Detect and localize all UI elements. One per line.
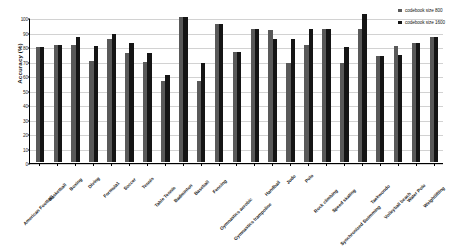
bar-group — [264, 19, 282, 162]
chart-legend: codebook size 800codebook size 1600 — [398, 8, 445, 25]
bar — [380, 56, 384, 162]
y-tick-label: 20 — [23, 133, 28, 138]
bar-group — [353, 19, 371, 162]
bar — [58, 45, 62, 162]
bar — [112, 34, 116, 162]
bar — [129, 43, 133, 162]
bar-group — [300, 19, 318, 162]
bar-group — [31, 19, 49, 162]
bar — [147, 53, 151, 162]
bar — [76, 37, 80, 162]
bar-group — [156, 19, 174, 162]
bar — [309, 29, 313, 162]
legend-item: codebook size 800 — [398, 8, 445, 13]
y-axis-title: Accuracy (%) — [16, 19, 23, 109]
bar — [398, 55, 402, 162]
bar-group — [246, 19, 264, 162]
bar — [183, 17, 187, 162]
x-axis-label-text: Polo — [304, 173, 315, 184]
legend-item: codebook size 1600 — [398, 20, 445, 25]
legend-swatch — [398, 21, 402, 25]
bar — [40, 47, 44, 162]
bar-group — [192, 19, 210, 162]
bar-group — [318, 19, 336, 162]
legend-swatch — [398, 9, 402, 13]
x-axis-label-text: Weightlifting — [423, 186, 446, 209]
legend-label: codebook size 1600 — [405, 20, 445, 25]
bar — [273, 39, 277, 162]
y-tick-mark — [28, 62, 30, 63]
bar-group — [121, 19, 139, 162]
bar — [434, 37, 438, 162]
bar-group — [67, 19, 85, 162]
x-axis-label-text: Basketball — [47, 182, 67, 202]
bar-group — [138, 19, 156, 162]
x-axis-label: Tennis — [151, 166, 165, 180]
bar-group — [389, 19, 407, 162]
bar — [416, 43, 420, 162]
bar-group — [282, 19, 300, 162]
y-tick-mark — [28, 48, 30, 49]
bar-group — [371, 19, 389, 162]
bar — [291, 39, 295, 162]
bar-group — [228, 19, 246, 162]
bar — [362, 14, 366, 162]
bar-group — [210, 19, 228, 162]
y-tick-mark — [28, 135, 30, 136]
bar-group — [174, 19, 192, 162]
bar — [94, 46, 98, 162]
x-axis-label-text: Tennis — [141, 176, 155, 190]
y-tick-mark — [28, 91, 30, 92]
bar-group — [425, 19, 443, 162]
y-tick-mark — [28, 149, 30, 150]
x-axis-label-text: Synchronized Swimming — [340, 204, 382, 246]
x-axis-label-text: Table Tennis — [153, 185, 176, 208]
legend-label: codebook size 800 — [405, 8, 442, 13]
y-tick-mark — [28, 106, 30, 107]
bar — [201, 63, 205, 162]
y-tick-label: 50 — [23, 89, 28, 94]
y-tick-mark — [28, 33, 30, 34]
y-tick-label: 70 — [23, 60, 28, 65]
bar-group — [103, 19, 121, 162]
bar — [326, 29, 330, 162]
x-axis-label-text: Diving — [87, 176, 100, 189]
x-axis-label-text: Fencing — [211, 178, 227, 194]
y-tick-label: 40 — [23, 104, 28, 109]
bar — [255, 29, 259, 162]
x-axis-label: Fencing — [224, 166, 240, 182]
bar-group — [335, 19, 353, 162]
bar — [219, 24, 223, 162]
x-axis-label-text: Formula1 — [102, 181, 120, 199]
y-tick-label: 30 — [23, 118, 28, 123]
bar-group — [49, 19, 67, 162]
bar-group — [85, 19, 103, 162]
y-tick-label: 90 — [23, 31, 28, 36]
bar — [344, 47, 348, 162]
y-tick-label: 80 — [23, 46, 28, 51]
bar-group — [407, 19, 425, 162]
x-axis-label: Diving — [97, 166, 110, 179]
plot-area: 0102030405060708090100 — [29, 19, 443, 164]
y-tick-mark — [28, 19, 30, 20]
x-axis-labels: American FootballBasketballBoxingDivingF… — [30, 166, 443, 224]
y-tick-label: 10 — [23, 147, 28, 152]
bar — [237, 52, 241, 162]
y-tick-mark — [28, 120, 30, 121]
x-axis-label: Soccer — [133, 166, 147, 180]
y-tick-label: 60 — [23, 75, 28, 80]
y-tick-label: 100 — [21, 17, 28, 22]
y-tick-mark — [28, 77, 30, 78]
bars-layer — [31, 19, 443, 162]
bar — [165, 75, 169, 162]
y-tick-label: 0 — [26, 162, 28, 167]
x-axis-label: Polo — [311, 166, 322, 177]
